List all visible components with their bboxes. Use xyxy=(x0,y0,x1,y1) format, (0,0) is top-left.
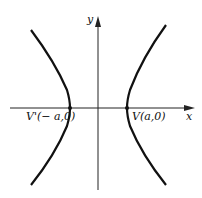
vertex-left-label: V'(− a,0) xyxy=(26,110,75,123)
right-branch xyxy=(127,25,166,185)
y-axis-arrow-icon xyxy=(95,16,101,27)
y-axis-label: y xyxy=(87,13,93,26)
diagram-canvas xyxy=(0,0,202,198)
x-axis-label: x xyxy=(186,110,192,123)
vertex-right-point xyxy=(125,106,129,110)
hyperbola-diagram: y x V'(− a,0) V(a,0) xyxy=(0,0,202,198)
vertex-right-label: V(a,0) xyxy=(132,110,166,123)
